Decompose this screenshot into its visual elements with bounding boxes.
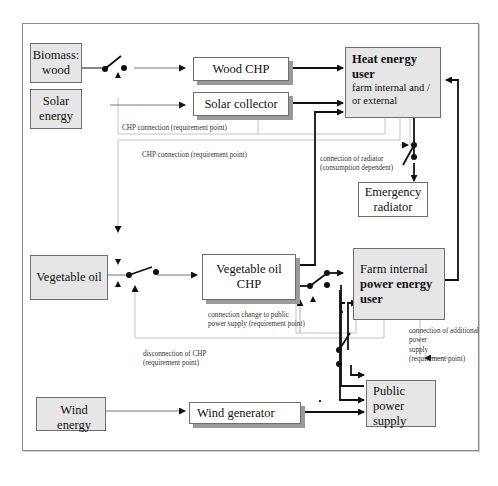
heat-energy-user-box: Heat energy user farm internal and / or …: [345, 47, 441, 118]
chp-connection-label-2: CHP connection (requirement point): [142, 151, 247, 160]
public-power-supply-box: Public power supply: [366, 380, 436, 427]
disconnection-chp-label: disconnection of CHP (requirement point): [143, 350, 206, 369]
vegetable-oil-chp-box: Vegetable oil CHP: [202, 254, 296, 300]
solar-energy-box: Solar energy: [30, 89, 82, 129]
additional-power-label: connection of additional power supply (r…: [409, 327, 479, 364]
vegetable-oil-box: Vegetable oil: [30, 255, 108, 300]
wind-energy-box: Wind energy: [36, 397, 106, 431]
emergency-radiator-box: Emergency radiator: [358, 182, 428, 217]
connection-change-label: connection change to public power supply…: [208, 311, 305, 330]
wind-generator-box: Wind generator: [189, 402, 301, 424]
biomass-wood-box: Biomass: wood: [30, 43, 82, 83]
switch-power-output-icon: [307, 270, 330, 302]
solar-collector-box: Solar collector: [193, 92, 289, 116]
farm-power-user-box: Farm internal power energy user: [353, 248, 445, 320]
chp-connection-label-1: CHP connection (requirement point): [122, 124, 227, 133]
switch-vegoil-icon: [115, 259, 159, 287]
wood-chp-box: Wood CHP: [193, 57, 289, 81]
switch-biomass-icon: [82, 56, 127, 78]
radiator-connection-label: connection of radiator (consumption depe…: [320, 155, 393, 174]
